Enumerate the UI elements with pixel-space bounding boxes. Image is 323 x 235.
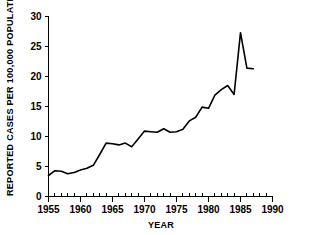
x-axis-tick-labels: 19551960196519701975198019851990 [37,204,284,215]
chart-figure: REPORTED CASES PER 100,000 POPULATION YE… [0,0,323,235]
y-tick-label: 5 [36,161,42,172]
x-tick-label: 1955 [37,204,60,215]
x-axis-title: YEAR [148,220,174,230]
y-tick-label: 30 [30,11,42,22]
data-series-line [49,33,254,176]
y-tick-label: 20 [30,71,42,82]
x-tick-label: 1990 [261,204,284,215]
x-axis-major-ticks [49,197,273,202]
y-tick-label: 25 [30,41,42,52]
y-axis-title: REPORTED CASES PER 100,000 POPULATION [5,0,15,196]
x-tick-label: 1975 [165,204,188,215]
x-tick-label: 1960 [69,204,92,215]
x-tick-label: 1965 [101,204,124,215]
y-axis-title-group: REPORTED CASES PER 100,000 POPULATION [5,0,15,196]
y-tick-label: 0 [36,191,42,202]
y-tick-label: 15 [30,101,42,112]
y-axis-tick-labels: 051015202530 [30,11,42,202]
x-tick-label: 1980 [197,204,220,215]
y-tick-label: 10 [30,131,42,142]
x-axis-title-group: YEAR [148,220,174,230]
x-tick-label: 1970 [133,204,156,215]
x-tick-label: 1985 [229,204,252,215]
chart-plot-area: REPORTED CASES PER 100,000 POPULATION YE… [0,0,323,235]
y-axis-ticks [45,17,49,197]
